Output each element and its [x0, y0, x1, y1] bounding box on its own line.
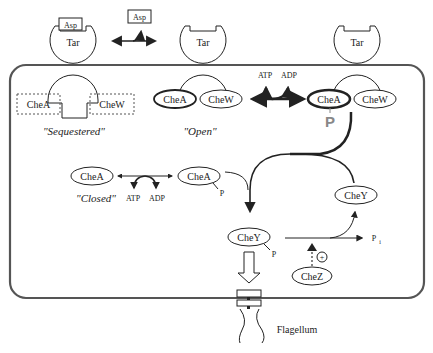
phospho-label-active: P	[325, 113, 335, 130]
chea-open-label: CheA	[163, 94, 187, 105]
chez-effect-label: +	[320, 253, 325, 262]
chea-phosphorylated: CheA P	[178, 167, 225, 198]
open-state-label: "Open"	[183, 125, 216, 137]
chea-sequestered-label: CheA	[27, 99, 51, 110]
chemotaxis-diagram: Asp Tar CheA CheW "Sequestered" Asp Tar …	[0, 0, 433, 353]
tar-label-active: Tar	[350, 37, 364, 48]
chew-sequestered-label: CheW	[99, 99, 125, 110]
atp-label-open: ATP	[258, 71, 273, 80]
chey-free: CheY	[335, 186, 377, 204]
chea-closed-label: CheA	[80, 171, 104, 182]
chey-free-label: CheY	[344, 190, 367, 201]
chez-complex: + CheZ	[292, 243, 332, 285]
pi-sub: i	[379, 239, 381, 245]
open-complex: Tar CheA CheW "Open"	[154, 26, 242, 137]
chey-p-sub: P	[272, 250, 277, 259]
sequestered-state-label: "Sequestered"	[43, 125, 105, 137]
atp-adp-exchange-arrow: ATP ADP	[253, 71, 303, 99]
chew-active-label: CheW	[362, 94, 388, 105]
tar-label-open: Tar	[196, 37, 210, 48]
chey-p-label: CheY	[237, 232, 260, 243]
chez-arrowhead	[307, 243, 317, 251]
signal-down-arrow	[238, 252, 260, 283]
chez-label: CheZ	[301, 271, 323, 282]
adp-label-closed: ADP	[149, 194, 166, 203]
closed-state-label: "Closed"	[76, 192, 116, 204]
asp-bound-label: Asp	[64, 21, 77, 30]
closed-complex: CheA "Closed"	[71, 167, 116, 204]
flagellum-label: Flagellum	[277, 324, 318, 335]
closed-atp-adp-arrow: ATP ADP	[118, 176, 172, 203]
chea-p-sub: P	[220, 189, 225, 198]
tar-label-sequestered: Tar	[66, 37, 80, 48]
chea-active-label: CheA	[317, 94, 341, 105]
adp-label-open: ADP	[281, 71, 298, 80]
sequestered-complex: Asp Tar CheA CheW "Sequestered"	[17, 18, 134, 137]
atp-label-closed: ATP	[126, 194, 141, 203]
pi-label: P	[372, 234, 377, 243]
asp-binding-arrow: Asp	[113, 10, 155, 41]
asp-free-label: Asp	[133, 13, 146, 22]
dephosphorylation-arrow: P i	[285, 212, 381, 245]
chew-open-label: CheW	[208, 94, 234, 105]
chea-p-label: CheA	[187, 171, 211, 182]
